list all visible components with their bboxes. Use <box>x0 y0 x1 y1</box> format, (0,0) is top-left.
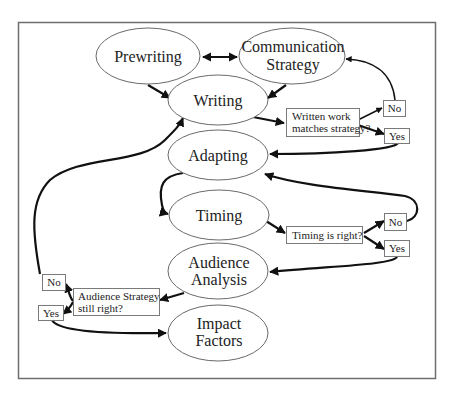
node-timing-label: Timing <box>196 207 243 225</box>
node-audience-analysis-label-2: Analysis <box>191 271 247 289</box>
outcome-no-timing: No <box>385 214 407 231</box>
node-audience-analysis-label-1: Audience <box>188 254 249 271</box>
node-impact-factors-label-2: Factors <box>195 332 242 349</box>
writing-process-flowchart: Prewriting Communication Strategy Writin… <box>0 0 452 397</box>
node-adapting-label: Adapting <box>188 147 248 165</box>
outcome-no-written-work-label: No <box>388 102 402 114</box>
node-prewriting: Prewriting <box>96 28 200 84</box>
decision-timing-right: Timing is right? <box>287 227 363 244</box>
node-impact-factors: Impact Factors <box>168 305 268 361</box>
node-impact-factors-label-1: Impact <box>197 315 242 333</box>
outcome-no-timing-label: No <box>389 216 403 228</box>
decision-written-work: Written work matches strategy? <box>287 109 371 137</box>
node-prewriting-label: Prewriting <box>114 48 182 66</box>
outcome-yes-audience-label: Yes <box>43 307 59 319</box>
outcome-yes-audience: Yes <box>39 306 64 321</box>
outcome-no-audience-label: No <box>47 276 61 288</box>
node-communication-strategy: Communication Strategy <box>239 28 345 84</box>
outcome-no-written-work: No <box>384 101 406 117</box>
decision-written-work-label-1: Written work <box>292 110 351 122</box>
decision-timing-right-label: Timing is right? <box>292 229 363 241</box>
decision-audience-strategy-label-2: still right? <box>78 302 123 314</box>
node-adapting: Adapting <box>168 130 268 180</box>
node-audience-analysis: Audience Analysis <box>168 243 268 299</box>
outcome-yes-timing: Yes <box>385 241 410 257</box>
node-communication-strategy-label-1: Communication <box>241 38 344 55</box>
node-writing: Writing <box>168 75 268 125</box>
outcome-no-audience: No <box>43 275 66 291</box>
node-communication-strategy-label-2: Strategy <box>266 56 319 74</box>
outcome-yes-written-work: Yes <box>385 129 410 144</box>
node-timing: Timing <box>169 190 269 240</box>
decision-written-work-label-2: matches strategy? <box>292 122 371 134</box>
outcome-yes-timing-label: Yes <box>389 242 405 254</box>
node-writing-label: Writing <box>193 92 242 110</box>
decision-audience-strategy-label-1: Audience Strategy <box>78 290 160 302</box>
decision-audience-strategy: Audience Strategy still right? <box>74 289 161 316</box>
outcome-yes-written-work-label: Yes <box>389 130 405 142</box>
